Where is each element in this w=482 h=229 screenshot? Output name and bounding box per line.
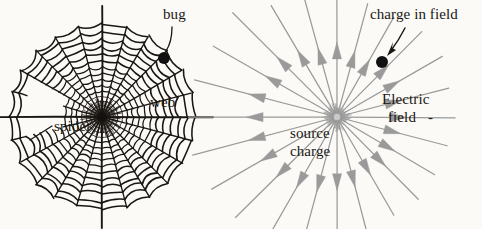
- label-bug: bug: [163, 7, 186, 23]
- charge-leader-arrowhead: [387, 42, 396, 56]
- label-charge: charge: [290, 144, 330, 160]
- charge-in-field-dot: [376, 56, 388, 68]
- label-electric: Electric: [382, 92, 429, 108]
- figure-canvas: bug web spider charge in field Electric …: [0, 0, 482, 229]
- label-charge-in-field: charge in field: [370, 7, 458, 23]
- label-spider: spider: [54, 119, 91, 135]
- label-field: field: [388, 110, 416, 126]
- label-source: source: [290, 126, 330, 142]
- label-web: web: [150, 95, 175, 111]
- label-field-dash: -: [428, 110, 433, 126]
